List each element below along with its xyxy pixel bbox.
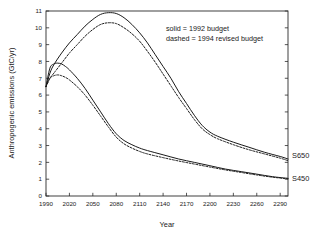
x-tick-label: 1990 bbox=[39, 200, 53, 207]
x-tick-label: 2140 bbox=[156, 200, 170, 207]
y-tick-label: 4 bbox=[39, 125, 43, 132]
y-axis-tick-labels: 01234567891011 bbox=[35, 7, 42, 199]
y-tick-label: 1 bbox=[39, 175, 43, 182]
x-tick-label: 2260 bbox=[250, 200, 264, 207]
x-tick-label: 2290 bbox=[273, 200, 287, 207]
y-tick-label: 10 bbox=[35, 24, 42, 31]
x-tick-label: 2200 bbox=[203, 200, 217, 207]
x-axis-ticks bbox=[46, 193, 280, 196]
x-tick-label: 2050 bbox=[86, 200, 100, 207]
y-tick-label: 6 bbox=[39, 91, 43, 98]
y-axis-title: Anthropogenic emissions (GtC/yr) bbox=[7, 48, 16, 159]
series-label-s650: S650 bbox=[292, 151, 309, 160]
legend-solid-text: solid = 1992 budget bbox=[166, 24, 229, 33]
y-tick-label: 5 bbox=[39, 108, 43, 115]
x-tick-label: 2080 bbox=[109, 200, 123, 207]
x-tick-label: 2230 bbox=[226, 200, 240, 207]
x-axis-title: Year bbox=[160, 220, 175, 229]
y-tick-label: 2 bbox=[39, 159, 43, 166]
curve-s450-dashed bbox=[46, 75, 288, 179]
x-axis-tick-labels: 1990202020502080211021402170220022302260… bbox=[39, 200, 288, 207]
emissions-line-chart: 1990202020502080211021402170220022302260… bbox=[0, 0, 316, 237]
y-tick-label: 8 bbox=[39, 58, 43, 65]
legend-dashed-text: dashed = 1994 revised budget bbox=[166, 34, 263, 43]
x-tick-label: 2170 bbox=[180, 200, 194, 207]
y-tick-label: 9 bbox=[39, 41, 43, 48]
series-label-s450: S450 bbox=[292, 174, 309, 183]
y-tick-label: 0 bbox=[39, 192, 43, 199]
x-tick-label: 2020 bbox=[63, 200, 77, 207]
x-tick-label: 2110 bbox=[133, 200, 147, 207]
y-tick-label: 7 bbox=[39, 75, 43, 82]
y-tick-label: 3 bbox=[39, 142, 43, 149]
chart-figure: 1990202020502080211021402170220022302260… bbox=[0, 0, 316, 237]
y-tick-label: 11 bbox=[36, 7, 43, 14]
